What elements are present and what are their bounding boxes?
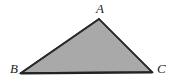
edge-bc [21, 72, 152, 73]
vertex-label-a: A [96, 2, 104, 15]
vertex-label-c: C [157, 62, 166, 75]
vertex-label-b: B [10, 62, 18, 75]
triangle-figure: A B C [0, 0, 177, 83]
triangle-diagram [0, 0, 177, 83]
